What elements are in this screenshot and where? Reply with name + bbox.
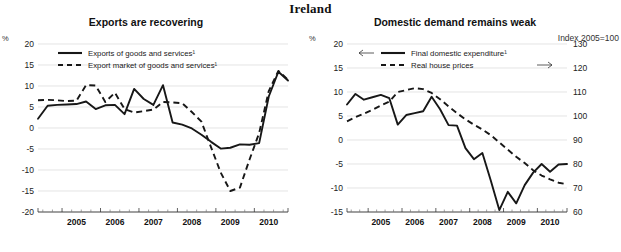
- chart-panel-exports: Exports are recovering % 20151050-5-10-1…: [0, 16, 300, 252]
- y-axis-tick-label: -5: [26, 144, 34, 154]
- legend-label: Final domestic expenditure¹: [411, 49, 507, 58]
- y2-axis-tick-label: 80: [573, 159, 583, 169]
- y-axis-tick-label: 5: [338, 111, 343, 121]
- x-axis-tick-label: 2006: [405, 217, 424, 227]
- series-line-dashed: [347, 88, 567, 184]
- y-axis-tick-label: 15: [25, 60, 35, 70]
- y2-axis-tick-label: 90: [573, 135, 583, 145]
- legend-arrow-left-icon: [359, 50, 374, 56]
- x-axis-tick-label: 2005: [67, 217, 86, 227]
- x-axis-tick-label: 2007: [144, 217, 163, 227]
- legend-label: Real house prices: [411, 61, 474, 70]
- y-axis-tick-label: 10: [334, 87, 344, 97]
- y-axis-tick-label: -10: [331, 183, 344, 193]
- domestic-demand-chart-svg: 20151050-5-10-15130120110100908070602005…: [305, 16, 621, 252]
- y2-axis-tick-label: 110: [573, 87, 587, 97]
- y-axis-tick-label: 5: [29, 102, 34, 112]
- x-axis-tick-label: 2009: [221, 217, 240, 227]
- y-axis-tick-label: 20: [334, 39, 344, 49]
- x-axis-tick-label: 2007: [439, 217, 458, 227]
- y-axis-tick-label: 0: [29, 123, 34, 133]
- x-axis-tick-label: 2010: [541, 217, 560, 227]
- y2-axis-tick-label: 100: [573, 111, 587, 121]
- y-axis-tick-label: -15: [331, 207, 344, 217]
- y-axis-tick-label: -20: [22, 207, 35, 217]
- y-axis-tick-label: -5: [335, 159, 343, 169]
- y-axis-tick-label: 20: [25, 39, 35, 49]
- legend-arrow-right-icon: [537, 62, 552, 68]
- y-axis-tick-label: 15: [334, 63, 344, 73]
- series-line-solid: [347, 94, 567, 210]
- y2-axis-tick-label: 130: [573, 39, 587, 49]
- y-axis-tick-label: -10: [22, 165, 35, 175]
- x-axis-tick-label: 2009: [507, 217, 526, 227]
- y-axis-tick-label: 10: [25, 81, 35, 91]
- chart-panel-domestic-demand: Domestic demand remains weak % Index 200…: [305, 16, 621, 252]
- x-axis-tick-label: 2006: [105, 217, 124, 227]
- legend-label: Exports of goods and services¹: [88, 49, 195, 58]
- y-axis-tick-label: -15: [22, 186, 35, 196]
- y2-axis-tick-label: 70: [573, 183, 583, 193]
- y2-axis-tick-label: 120: [573, 63, 587, 73]
- x-axis-tick-label: 2008: [473, 217, 492, 227]
- series-line-solid: [38, 72, 288, 149]
- page-title: Ireland: [0, 1, 621, 17]
- legend-label: Export market of goods and services¹: [88, 61, 218, 70]
- y2-axis-tick-label: 60: [573, 207, 583, 217]
- x-axis-tick-label: 2005: [371, 217, 390, 227]
- x-axis-tick-label: 2010: [259, 217, 278, 227]
- x-axis-tick-label: 2008: [182, 217, 201, 227]
- exports-chart-svg: 20151050-5-10-15-20200520062007200820092…: [0, 16, 300, 252]
- y-axis-tick-label: 0: [338, 135, 343, 145]
